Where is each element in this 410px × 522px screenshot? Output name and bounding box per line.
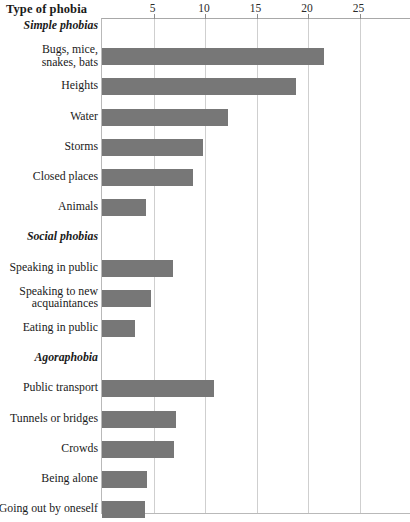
category-label: Water [0,110,98,123]
category-label: Being alone [0,472,98,485]
bar [102,290,151,307]
section-header-row: Agoraphobia [0,343,410,373]
category-label: Closed places [0,170,98,183]
bar [102,109,228,126]
section-header-row: Simple phobias [0,11,410,41]
bar-row: Public transport [0,373,410,403]
bar [102,411,176,428]
category-label: Speaking in public [0,261,98,274]
category-label-line2: snakes, bats [0,56,98,68]
bar-row: Bugs, mice,snakes, bats [0,41,410,71]
category-label: Heights [0,79,98,92]
bar [102,139,203,156]
bar [102,320,135,337]
bar-row: Water [0,102,410,132]
category-label: Public transport [0,381,98,394]
section-header-row: Social phobias [0,222,410,252]
bar-row: Going out by oneself [0,494,410,522]
bar-row: Eating in public [0,313,410,343]
bar-row: Crowds [0,434,410,464]
category-label: Tunnels or bridges [0,412,98,425]
bar [102,169,193,186]
bar-row: Tunnels or bridges [0,404,410,434]
section-label: Agoraphobia [0,351,98,364]
category-label: Going out by oneself [0,502,98,515]
bar [102,48,324,65]
bar-row: Speaking in public [0,253,410,283]
bar [102,501,145,518]
category-label-line1: Bugs, mice, [0,43,98,55]
bar-row: Speaking to newacquaintances [0,283,410,313]
category-label: Animals [0,200,98,213]
category-label: Eating in public [0,321,98,334]
category-label: Speaking to newacquaintances [0,285,98,310]
category-label: Crowds [0,442,98,455]
category-label: Bugs, mice,snakes, bats [0,43,98,68]
bar [102,260,173,277]
bar-row: Closed places [0,162,410,192]
bar-row: Being alone [0,464,410,494]
bar-row: Heights [0,71,410,101]
bar [102,78,296,95]
section-label: Simple phobias [0,19,98,32]
section-label: Social phobias [0,230,98,243]
bar [102,471,147,488]
bar [102,199,146,216]
category-label-line2: acquaintances [0,297,98,309]
bar-row: Storms [0,132,410,162]
category-label: Storms [0,140,98,153]
bar [102,380,214,397]
bar-row: Animals [0,192,410,222]
bar [102,441,174,458]
phobia-bar-chart: Type of phobia 510152025 Simple phobiasB… [0,0,410,522]
